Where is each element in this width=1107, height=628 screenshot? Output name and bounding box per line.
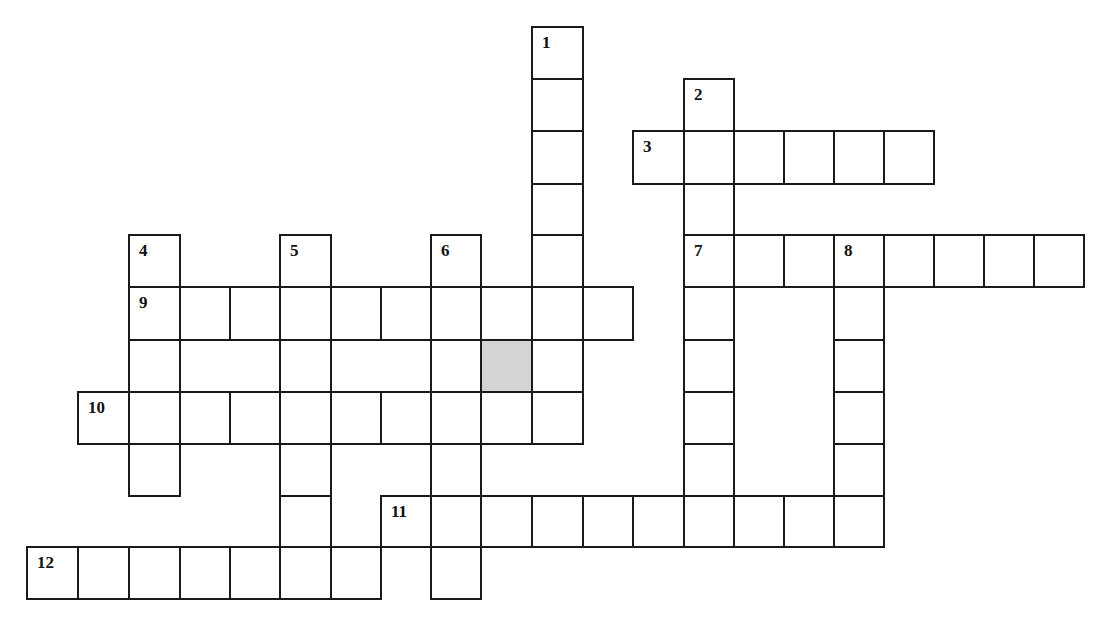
crossword-cell[interactable] [179,391,231,445]
crossword-cell[interactable] [531,286,584,341]
crossword-cell[interactable] [531,130,584,185]
crossword-cell[interactable] [733,130,785,185]
crossword-cell[interactable] [683,339,735,393]
crossword-cell[interactable] [883,234,935,288]
clue-number: 12 [37,554,54,571]
crossword-cell[interactable] [683,183,735,236]
crossword-cell[interactable] [430,546,482,600]
crossword-cell[interactable] [229,546,281,600]
crossword-cell[interactable] [531,339,584,393]
crossword-cell[interactable]: 4 [128,234,181,288]
crossword-cell[interactable] [833,339,885,393]
crossword-cell[interactable] [783,234,835,288]
crossword-cell[interactable] [279,391,332,445]
crossword-cell[interactable] [531,183,584,236]
crossword-cell[interactable] [833,495,885,548]
clue-number: 9 [139,294,148,311]
crossword-cell[interactable] [833,391,885,445]
crossword-cell[interactable] [128,546,181,600]
crossword-cell[interactable] [430,495,482,548]
crossword-cell[interactable]: 12 [26,546,79,600]
crossword-cell[interactable] [683,443,735,497]
crossword-cell[interactable] [833,286,885,341]
crossword-cell[interactable]: 8 [833,234,885,288]
crossword-cell[interactable] [983,234,1035,288]
crossword-cell[interactable] [279,339,332,393]
crossword-cell[interactable] [833,443,885,497]
crossword-cell[interactable] [179,546,231,600]
crossword-cell[interactable] [330,546,382,600]
clue-number: 1 [542,34,551,51]
clue-number: 3 [643,138,652,155]
crossword-cell[interactable] [531,391,584,445]
crossword-cell[interactable] [683,495,735,548]
clue-number: 2 [694,86,703,103]
crossword-cell[interactable]: 3 [632,130,685,185]
crossword-cell[interactable] [430,286,482,341]
crossword-cell[interactable] [683,130,735,185]
clue-number: 4 [139,242,148,259]
crossword-cell[interactable] [330,391,382,445]
crossword-cell[interactable]: 6 [430,234,482,288]
crossword-cell[interactable] [480,391,533,445]
crossword-cell[interactable]: 2 [683,78,735,132]
clue-number: 6 [441,242,450,259]
crossword-cell[interactable] [833,130,885,185]
crossword-cell[interactable] [279,443,332,497]
crossword-cell[interactable] [279,495,332,548]
crossword-cell[interactable] [783,495,835,548]
crossword-cell[interactable] [380,286,432,341]
crossword-cell[interactable] [430,391,482,445]
crossword-cell[interactable] [1033,234,1085,288]
shaded-cell [480,339,533,393]
clue-number: 5 [290,242,299,259]
crossword-cell[interactable] [733,234,785,288]
crossword-cell[interactable] [279,286,332,341]
crossword-cell[interactable] [380,391,432,445]
crossword-cell[interactable] [430,443,482,497]
crossword-cell[interactable] [933,234,985,288]
crossword-cell[interactable] [883,130,935,185]
crossword-cell[interactable] [279,546,332,600]
clue-number: 7 [694,242,703,259]
crossword-cell[interactable] [480,495,533,548]
crossword-cell[interactable] [632,495,685,548]
crossword-cell[interactable] [77,546,130,600]
crossword-cell[interactable] [531,234,584,288]
crossword-cell[interactable] [683,286,735,341]
crossword-cell[interactable] [229,286,281,341]
crossword-cell[interactable] [582,286,634,341]
crossword-cell[interactable]: 7 [683,234,735,288]
crossword-cell[interactable] [229,391,281,445]
crossword-cell[interactable]: 10 [77,391,130,445]
crossword-cell[interactable] [430,339,482,393]
crossword-cell[interactable] [531,78,584,132]
crossword-cell[interactable] [783,130,835,185]
clue-number: 8 [844,242,853,259]
crossword-cell[interactable] [128,391,181,445]
clue-number: 10 [88,399,105,416]
crossword-cell[interactable] [683,391,735,445]
crossword-cell[interactable]: 5 [279,234,332,288]
crossword-cell[interactable] [330,286,382,341]
crossword-cell[interactable] [179,286,231,341]
crossword-cell[interactable] [582,495,634,548]
crossword-cell[interactable]: 1 [531,26,584,80]
crossword-cell[interactable]: 11 [380,495,432,548]
crossword-cell[interactable] [733,495,785,548]
crossword-cell[interactable] [128,443,181,497]
crossword-cell[interactable] [531,495,584,548]
crossword-cell[interactable]: 9 [128,286,181,341]
crossword-cell[interactable] [480,286,533,341]
crossword-cell[interactable] [128,339,181,393]
crossword-grid: 127349568101112 [0,0,1107,628]
clue-number: 11 [391,503,407,520]
